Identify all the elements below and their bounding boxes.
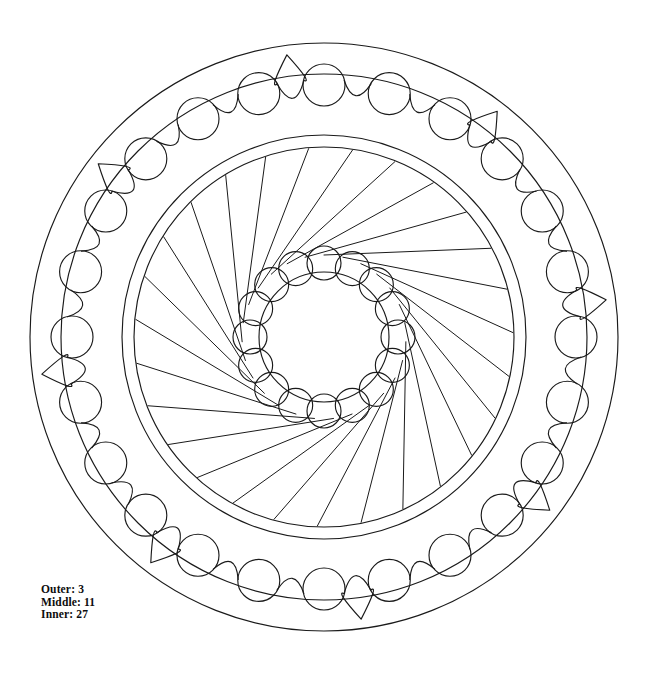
legend-block: Outer: 3 Middle: 11 Inner: 27: [41, 583, 95, 621]
legend-outer: Outer: 3: [41, 583, 95, 596]
legend-inner: Inner: 27: [41, 608, 95, 621]
mandala-canvas: [0, 0, 646, 674]
middle-ring-group: [122, 135, 526, 539]
inner-core-group: [259, 272, 389, 402]
legend-middle: Middle: 11: [41, 596, 95, 609]
outer-scallop-group: [42, 55, 606, 619]
outer-circle-group: [51, 64, 597, 610]
mandala-figure: [0, 0, 646, 674]
spiral-ray-group: [136, 149, 513, 526]
outer-boundary-group: [30, 43, 618, 631]
